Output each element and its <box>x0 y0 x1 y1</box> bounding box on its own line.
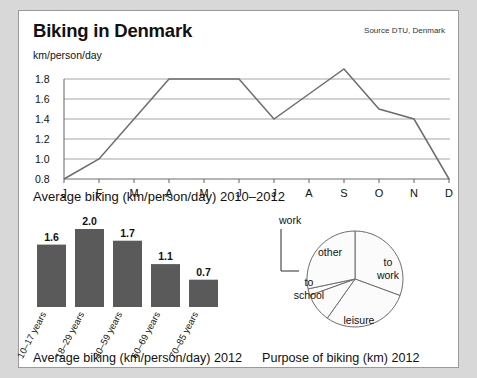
ytick-label: 1.0 <box>35 153 50 165</box>
pie-label-to-school-line2: school <box>294 289 324 301</box>
page-title: Biking in Denmark <box>33 20 192 42</box>
ytick-label: 1.8 <box>35 73 50 85</box>
xtick-label: N <box>410 187 418 199</box>
ytick-label: 0.8 <box>35 173 50 185</box>
pie-label-leisure: leisure <box>344 314 375 326</box>
xtick-label: S <box>340 187 347 199</box>
line-chart-y-axis-unit: km/person/day <box>33 49 102 61</box>
line-chart-svg: 1.8 1.6 1.4 1.2 1.0 0.8 J F M A M J J A … <box>23 63 456 188</box>
bar-chart-svg: 1.62.01.71.10.7 10–17 years18–29 years30… <box>23 209 238 349</box>
pie-slice <box>307 231 355 289</box>
source-note: Source DTU, Denmark <box>364 26 445 35</box>
line-chart-ytick-labels: 1.8 1.6 1.4 1.2 1.0 0.8 <box>35 73 50 185</box>
line-chart: 1.8 1.6 1.4 1.2 1.0 0.8 J F M A M J J A … <box>23 63 456 188</box>
pie-label-other: other <box>318 246 342 258</box>
bar <box>151 264 180 307</box>
xtick-label: O <box>375 187 384 199</box>
ytick-label: 1.6 <box>35 93 50 105</box>
line-chart-caption: Average biking (km/person/day) 2010–2012 <box>33 189 285 204</box>
bar-value-label: 1.6 <box>44 231 59 243</box>
bar-value-label: 1.7 <box>120 227 135 239</box>
xtick-label: D <box>445 187 453 199</box>
bar <box>189 280 218 307</box>
pie-label-to-work-line1: to <box>384 256 393 268</box>
pie-label-to-work-line2: work <box>376 269 400 281</box>
bar-chart: 1.62.01.71.10.7 10–17 years18–29 years30… <box>23 209 238 349</box>
bar-chart-bars <box>37 229 218 307</box>
xtick-label: A <box>305 187 313 199</box>
bar <box>113 241 142 307</box>
ytick-label: 1.2 <box>35 133 50 145</box>
bar-value-label: 2.0 <box>82 215 97 227</box>
bar <box>75 229 104 307</box>
pie-chart-svg: work other to work to school leisure <box>237 209 457 349</box>
ytick-label: 1.4 <box>35 113 50 125</box>
pie-label-to-school-line1: to <box>305 276 314 288</box>
pie-chart: work other to work to school leisure <box>237 209 457 349</box>
infographic-card: Biking in Denmark Source DTU, Denmark km… <box>18 10 459 368</box>
line-chart-gridlines <box>64 79 450 159</box>
pie-chart-caption: Purpose of biking (km) 2012 <box>262 351 420 365</box>
pie-chart-work-leader <box>281 229 299 271</box>
line-chart-axes <box>64 79 450 183</box>
bar <box>37 245 66 307</box>
pie-label-work: work <box>278 214 302 226</box>
bar-value-label: 1.1 <box>158 250 173 262</box>
bar-value-label: 0.7 <box>196 266 211 278</box>
bar-chart-caption: Average biking (km/person/day) 2012 <box>33 351 242 365</box>
line-chart-series <box>64 69 449 179</box>
